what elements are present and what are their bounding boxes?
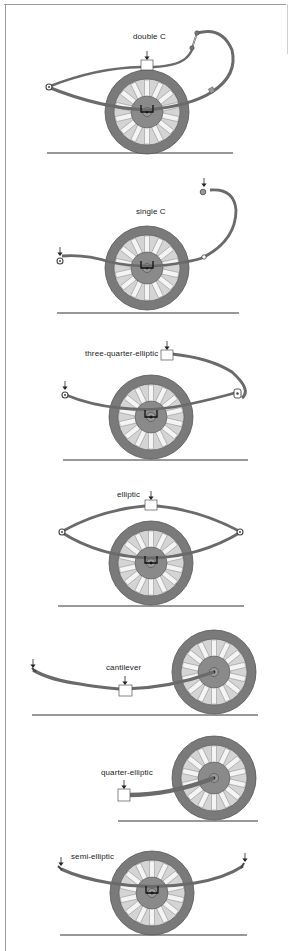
body-mount-box — [118, 789, 130, 801]
c-spring — [204, 190, 236, 257]
label-single-c: single C — [136, 207, 166, 216]
spring-eye-icon — [46, 84, 52, 90]
spring-eye-icon — [237, 529, 243, 535]
load-arrow-icon — [62, 381, 67, 390]
panel-elliptic — [58, 491, 244, 606]
panel-double-c — [46, 31, 233, 154]
panel-quarter-elliptic — [118, 736, 258, 821]
body-mount-box — [145, 500, 157, 510]
spring-eye-icon — [57, 258, 63, 264]
spring-eye-icon — [62, 392, 68, 398]
panel-three-quarter-elliptic — [62, 341, 248, 460]
label-three-quarter-elliptic: three-quarter-elliptic — [85, 349, 158, 358]
load-arrow-icon — [144, 51, 149, 60]
body-mount-box — [141, 60, 153, 70]
load-arrow-icon — [122, 676, 127, 685]
panel-semi-elliptic — [58, 851, 248, 935]
load-arrow-icon — [30, 659, 35, 668]
label-quarter-elliptic: quarter-elliptic — [101, 768, 153, 777]
load-arrow-icon — [164, 341, 169, 350]
c-spring-outer — [197, 31, 233, 92]
label-elliptic: elliptic — [117, 490, 140, 499]
panel-cantilever — [30, 630, 258, 715]
load-arrow-icon — [58, 857, 63, 866]
label-cantilever: cantilever — [106, 663, 141, 672]
c-spring-inner — [153, 48, 192, 67]
load-arrow-icon — [57, 247, 62, 256]
body-mount-box — [161, 350, 173, 360]
load-arrow-icon — [148, 491, 153, 500]
load-arrow-icon — [121, 780, 126, 789]
spring-types-diagram — [0, 0, 292, 951]
spring-eye-icon — [59, 529, 65, 535]
label-semi-elliptic: semi-elliptic — [71, 852, 114, 861]
load-arrow-icon — [201, 178, 206, 187]
load-arrow-icon — [242, 853, 247, 862]
label-double-c: double C — [133, 32, 166, 41]
spring-eye-icon — [200, 189, 206, 195]
panel-single-c — [57, 178, 239, 313]
body-mount-box — [119, 685, 132, 696]
